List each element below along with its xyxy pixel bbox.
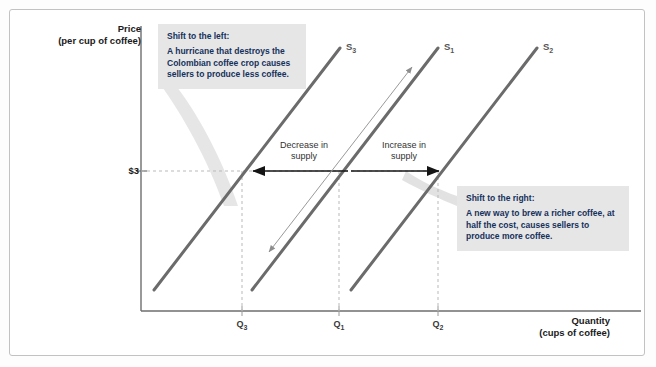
- callout-shift-left: Shift to the left: A hurricane that dest…: [158, 24, 306, 89]
- q2-sub: 2: [440, 324, 444, 331]
- y-axis-label: Price (per cup of coffee): [46, 23, 141, 46]
- increase-caption-line2: supply: [391, 151, 417, 161]
- q3-sub: 3: [244, 324, 248, 331]
- callout-right-body: A new way to brew a richer coffee, at ha…: [466, 208, 620, 243]
- y-axis-subtitle: (per cup of coffee): [58, 35, 141, 46]
- diagram-frame: Price (per cup of coffee) Quantity (cups…: [9, 9, 645, 356]
- q1-axis-label: Q1: [324, 319, 354, 331]
- decrease-supply-caption: Decrease in supply: [256, 140, 352, 162]
- y-axis-title: Price: [118, 23, 141, 34]
- s2-sub: 2: [549, 47, 553, 54]
- price-tick-label: $3: [115, 165, 139, 176]
- plot-area: Price (per cup of coffee) Quantity (cups…: [10, 10, 646, 357]
- callout-right-heading: Shift to the right:: [466, 193, 620, 204]
- s1-sub: 1: [450, 47, 454, 54]
- curve-label-s2: S2: [543, 41, 553, 54]
- increase-caption-line1: Increase in: [382, 140, 426, 150]
- q3-base: Q: [237, 319, 244, 329]
- increase-supply-caption: Increase in supply: [356, 140, 452, 162]
- q1-base: Q: [334, 319, 341, 329]
- callout-shift-right: Shift to the right: A new way to brew a …: [457, 186, 629, 251]
- callout-left-body: A hurricane that destroys the Colombian …: [167, 46, 297, 81]
- curve-label-s3: S3: [346, 41, 356, 54]
- arrow-layer: [10, 10, 646, 357]
- decrease-caption-line2: supply: [291, 151, 317, 161]
- curve-label-s1: S1: [444, 41, 454, 54]
- decrease-caption-line1: Decrease in: [280, 140, 328, 150]
- x-axis-label: Quantity (cups of coffee): [490, 315, 610, 338]
- q1-sub: 1: [341, 324, 345, 331]
- x-axis-subtitle: (cups of coffee): [539, 327, 610, 338]
- x-axis-title: Quantity: [571, 315, 610, 326]
- s3-sub: 3: [352, 47, 356, 54]
- q2-base: Q: [433, 319, 440, 329]
- q3-axis-label: Q3: [227, 319, 257, 331]
- q2-axis-label: Q2: [423, 319, 453, 331]
- callout-left-heading: Shift to the left:: [167, 31, 297, 42]
